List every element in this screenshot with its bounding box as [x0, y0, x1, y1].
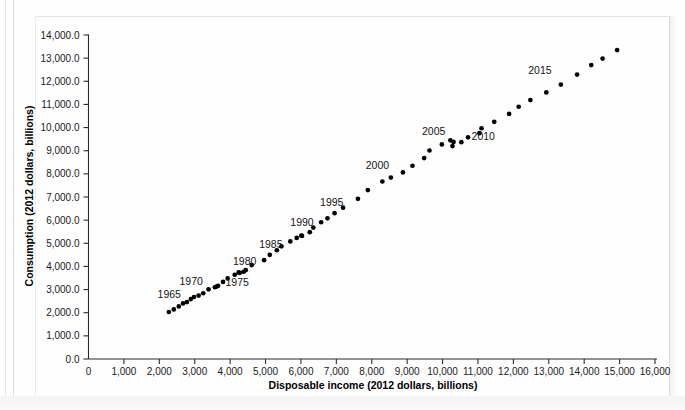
data-point — [516, 104, 521, 109]
x-tick-label: 11,000 — [463, 366, 493, 377]
x-tick-label: 13,000 — [533, 366, 564, 377]
data-point — [440, 142, 445, 147]
y-tick-label: 5,000.0 — [46, 238, 80, 249]
x-tick-label: 0 — [86, 366, 92, 377]
y-tick-label: 6,000.0 — [46, 215, 80, 226]
year-annotation: 1990 — [290, 216, 314, 228]
x-tick-label: 4,000 — [218, 366, 243, 377]
data-point — [451, 140, 456, 145]
year-annotation: 2005 — [422, 125, 446, 137]
x-tick-label: 6,000 — [288, 366, 313, 377]
x-axis-title: Disposable income (2012 dollars, billion… — [269, 379, 478, 391]
data-point-group — [167, 48, 620, 315]
year-annotation: 1995 — [320, 196, 344, 208]
y-tick-label: 10,000.0 — [41, 122, 80, 133]
y-tick-label: 3,000.0 — [46, 284, 80, 295]
data-point — [171, 307, 176, 312]
x-tick-label: 7,000 — [324, 366, 349, 377]
y-tick-label: 9,000.0 — [46, 145, 80, 156]
y-tick-label: 1,000.0 — [46, 330, 80, 341]
y-tick-label: 8,000.0 — [46, 168, 80, 179]
year-annotation: 1970 — [180, 275, 204, 287]
data-point — [167, 310, 172, 315]
data-point — [185, 300, 190, 305]
x-tick-label: 9,000 — [395, 366, 420, 377]
data-point — [196, 293, 201, 298]
data-point — [450, 144, 455, 149]
x-tick-label: 14,000 — [569, 366, 600, 377]
scatter-plot-figure: 0.01,000.02,000.03,000.04,000.05,000.06,… — [0, 0, 685, 410]
data-point — [206, 287, 211, 292]
y-tick-label: 11,000.0 — [41, 99, 80, 110]
data-point — [544, 90, 549, 95]
data-point — [267, 253, 272, 258]
data-point — [507, 112, 512, 117]
x-tick-label: 2,000 — [147, 366, 172, 377]
data-point — [325, 216, 330, 221]
data-point — [466, 135, 471, 140]
data-point — [332, 211, 337, 216]
year-annotation: 1965 — [158, 288, 182, 300]
y-tick-label: 4,000.0 — [46, 261, 80, 272]
data-point — [575, 72, 580, 77]
data-point — [243, 268, 248, 273]
data-point — [380, 179, 385, 184]
data-point — [319, 220, 324, 225]
year-annotation: 1975 — [226, 276, 250, 288]
data-point — [356, 197, 361, 202]
data-point — [307, 230, 312, 235]
year-annotation: 2010 — [472, 130, 496, 142]
y-tick-label: 2,000.0 — [46, 307, 80, 318]
x-tick-label: 16,000 — [640, 366, 671, 377]
y-tick-label: 7,000.0 — [46, 192, 80, 203]
data-point — [600, 56, 605, 61]
data-point — [589, 63, 594, 68]
data-point — [288, 239, 293, 244]
x-tick-label: 15,000 — [604, 366, 635, 377]
x-tick-label: 3,000 — [182, 366, 207, 377]
data-point — [459, 140, 464, 145]
data-point — [492, 119, 497, 124]
y-axis-title: Consumption (2012 dollars, billions) — [23, 106, 35, 287]
data-point — [366, 188, 371, 193]
year-annotation: 1985 — [259, 238, 283, 250]
x-tick-label: 10,000 — [427, 366, 458, 377]
data-point — [558, 82, 563, 87]
data-point — [192, 295, 197, 300]
y-axis-tick-group: 0.01,000.02,000.03,000.04,000.05,000.06,… — [41, 30, 89, 365]
data-point — [201, 291, 206, 296]
year-annotation-group: 1965197019751980198519901995200020052010… — [158, 64, 552, 300]
year-annotation: 2000 — [366, 159, 390, 171]
x-tick-label: 5,000 — [253, 366, 278, 377]
x-axis-tick-group: 01,0002,0003,0004,0005,0006,0007,0008,00… — [86, 359, 671, 377]
data-point — [216, 284, 221, 289]
data-point — [422, 156, 427, 161]
year-annotation: 1980 — [233, 255, 257, 267]
data-point — [410, 163, 415, 168]
data-point — [401, 170, 406, 175]
y-tick-label: 13,000.0 — [41, 53, 80, 64]
x-tick-label: 1,000 — [111, 366, 136, 377]
data-point — [300, 234, 305, 239]
data-point — [262, 258, 267, 263]
data-point — [389, 175, 394, 180]
data-point — [176, 304, 181, 309]
y-tick-label: 14,000.0 — [41, 30, 80, 41]
y-tick-label: 12,000.0 — [41, 76, 80, 87]
x-tick-label: 12,000 — [498, 366, 529, 377]
y-tick-label: 0.0 — [66, 354, 80, 365]
data-point — [427, 148, 432, 153]
data-point — [615, 48, 620, 53]
year-annotation: 2015 — [528, 64, 552, 76]
x-tick-label: 8,000 — [359, 366, 384, 377]
plot-canvas: 0.01,000.02,000.03,000.04,000.05,000.06,… — [0, 0, 685, 410]
data-point — [528, 98, 533, 103]
data-point — [294, 236, 299, 241]
